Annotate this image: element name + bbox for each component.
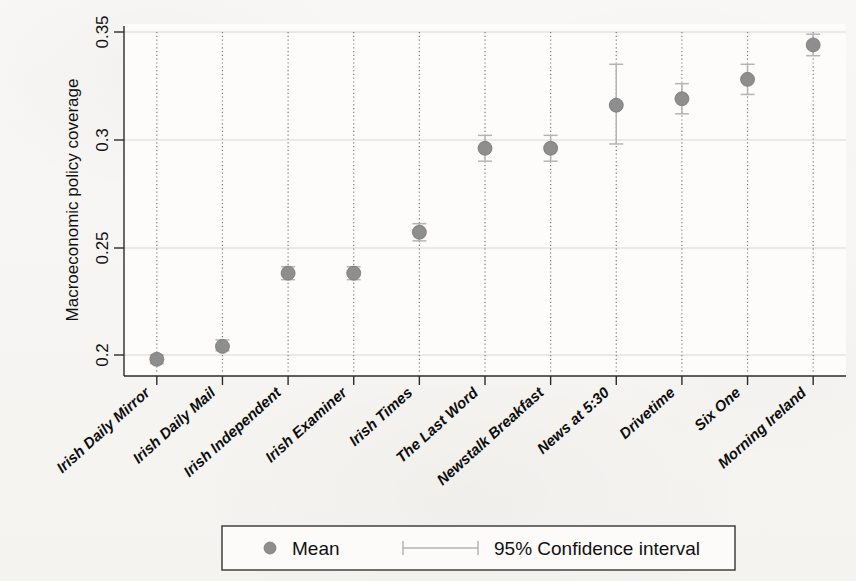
y-axis bbox=[114, 26, 124, 376]
y-tick-label-3: 0.2 bbox=[93, 343, 112, 367]
y-tick-label-2: 0.25 bbox=[93, 231, 112, 264]
x-tick-group bbox=[157, 376, 813, 385]
legend-ci-label: 95% Confidence interval bbox=[494, 538, 700, 559]
x-tick-label: Irish Times bbox=[345, 384, 415, 449]
mean-marker bbox=[215, 339, 229, 353]
mean-marker bbox=[609, 98, 623, 112]
legend-mean-marker-icon bbox=[264, 542, 276, 554]
x-tick-label: News at 5:30 bbox=[533, 383, 612, 457]
mean-marker bbox=[281, 266, 295, 280]
x-tick-label-group: Irish Daily MirrorIrish Daily MailIrish … bbox=[53, 383, 810, 488]
mean-marker bbox=[741, 72, 755, 86]
x-axis bbox=[124, 376, 846, 385]
legend-mean-label: Mean bbox=[292, 538, 340, 559]
mean-marker bbox=[675, 92, 689, 106]
x-tick-label: Drivetime bbox=[616, 384, 678, 442]
mean-marker bbox=[478, 141, 492, 155]
mean-marker bbox=[412, 225, 426, 239]
y-tick-label-1: 0.3 bbox=[93, 128, 112, 152]
y-axis-title: Macroeconomic policy coverage bbox=[63, 79, 82, 322]
mean-marker bbox=[150, 352, 164, 366]
x-tick-label: Newstalk Breakfast bbox=[433, 383, 547, 488]
chart-legend: Mean 95% Confidence interval bbox=[222, 526, 735, 570]
chart-figure: 0.35 0.3 0.25 0.2 Macroeconomic policy c… bbox=[0, 0, 856, 581]
chart-svg: 0.35 0.3 0.25 0.2 Macroeconomic policy c… bbox=[0, 0, 856, 581]
mean-marker bbox=[806, 38, 820, 52]
y-tick-label-0: 0.35 bbox=[93, 15, 112, 48]
mean-marker bbox=[544, 141, 558, 155]
x-tick-label: Six One bbox=[691, 384, 744, 434]
mean-marker bbox=[347, 266, 361, 280]
